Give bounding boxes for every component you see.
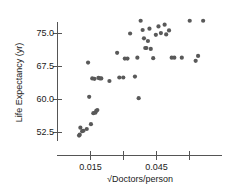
data-point xyxy=(87,95,91,99)
data-point xyxy=(147,27,151,31)
data-point xyxy=(115,51,119,55)
x-tick-label-0-045: 0.045 xyxy=(136,162,177,172)
data-point xyxy=(107,79,111,83)
data-point-group xyxy=(77,19,205,138)
data-point xyxy=(117,75,121,79)
data-point xyxy=(201,19,205,23)
y-tick-label-60: 60.0 xyxy=(26,94,54,104)
data-point xyxy=(172,56,176,60)
data-point xyxy=(139,19,143,23)
data-point xyxy=(159,31,163,35)
data-point xyxy=(125,56,129,60)
y-tick-label-52-5: 52.5 xyxy=(26,127,54,137)
y-axis-title: Life Expectancy (yr) xyxy=(14,23,25,143)
data-point xyxy=(86,60,90,64)
y-axis xyxy=(53,22,62,141)
data-point xyxy=(196,54,200,58)
data-point xyxy=(144,46,148,50)
data-point xyxy=(78,133,82,137)
y-tick-label-75: 75.0 xyxy=(26,28,54,38)
y-tick-label-67-5: 67.5 xyxy=(26,61,54,71)
data-point xyxy=(95,108,99,112)
data-point xyxy=(142,36,146,40)
x-axis xyxy=(57,151,222,160)
data-point xyxy=(89,122,93,126)
data-point xyxy=(164,32,168,36)
x-tick-label-0-015: 0.015 xyxy=(70,162,111,172)
data-point xyxy=(180,56,184,60)
data-point xyxy=(146,39,150,43)
scatter-plot-figure: 75.0 67.5 60.0 52.5 0.015 0.045 Life Exp… xyxy=(0,0,228,194)
data-point xyxy=(128,31,132,35)
data-point xyxy=(167,28,171,32)
data-point xyxy=(99,76,103,80)
data-point xyxy=(194,59,198,63)
data-point xyxy=(133,75,137,79)
data-point xyxy=(92,77,96,81)
data-point xyxy=(151,56,155,60)
data-point xyxy=(121,75,125,79)
data-point xyxy=(141,28,145,32)
data-point xyxy=(137,96,141,100)
data-point xyxy=(163,23,167,27)
x-axis-title: √Doctors/person xyxy=(60,174,220,184)
data-point xyxy=(188,19,192,23)
data-point xyxy=(135,56,139,60)
data-point xyxy=(156,24,160,28)
data-point xyxy=(154,33,158,37)
data-point xyxy=(85,127,89,131)
data-point xyxy=(149,47,153,51)
